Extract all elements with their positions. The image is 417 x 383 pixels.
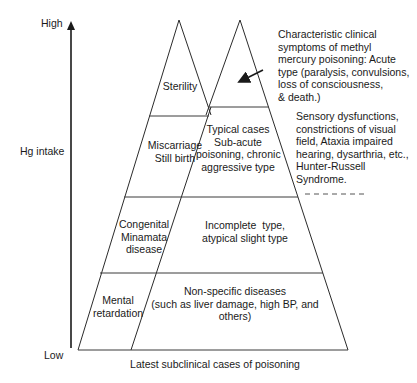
acute-type-annotation: Characteristic clinical symptoms of meth…: [278, 28, 409, 103]
axis-arrowhead-icon: [67, 21, 75, 30]
x-caption: Latest subclinical cases of poisoning: [80, 358, 350, 371]
annotation-arrow-icon: [243, 70, 263, 80]
axis-high-label: High: [41, 17, 63, 30]
right-level-2-label: Typical cases Sub-acute poisoning, chron…: [196, 123, 280, 173]
right-level-3-label: Incomplete type, atypical slight type: [200, 219, 290, 244]
right-level-4-label: Non-specific diseases (such as liver dam…: [145, 285, 325, 323]
left-level-3-label: Congenital Minamata disease: [113, 218, 175, 256]
typical-symptoms-annotation: Sensory dysfunctions, constrictions of v…: [296, 110, 409, 185]
axis-low-label: Low: [44, 349, 63, 362]
hg-intake-axis: [67, 21, 75, 348]
left-level-1-label: Sterility: [160, 80, 200, 93]
left-level-4-label: Mental retardation: [90, 294, 146, 319]
axis-title: Hg intake: [20, 145, 64, 158]
